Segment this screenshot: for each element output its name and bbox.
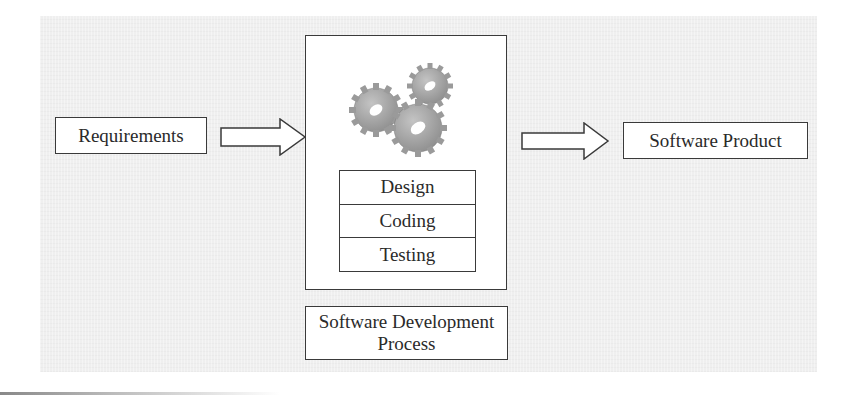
phase-testing: Testing bbox=[340, 238, 475, 271]
requirements-box: Requirements bbox=[55, 117, 207, 154]
phase-stack: Design Coding Testing bbox=[339, 170, 476, 272]
phase-coding: Coding bbox=[340, 205, 475, 239]
requirements-label: Requirements bbox=[78, 125, 184, 147]
process-caption-box: Software Development Process bbox=[305, 306, 508, 360]
software-product-box: Software Product bbox=[623, 122, 808, 159]
arrow-right-icon bbox=[520, 122, 610, 160]
software-product-label: Software Product bbox=[649, 130, 781, 152]
process-caption-line1: Software Development bbox=[319, 311, 495, 333]
phase-design: Design bbox=[340, 171, 475, 205]
gears-icon bbox=[340, 58, 460, 168]
process-caption-line2: Process bbox=[377, 333, 435, 355]
arrow-right-icon bbox=[220, 118, 308, 156]
